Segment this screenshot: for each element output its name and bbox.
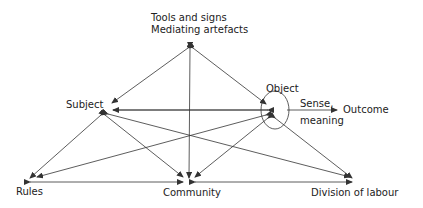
outcome-label: Outcome: [343, 104, 389, 116]
sense-label-line1: Sense,: [300, 98, 333, 110]
tools-label-line2: Mediating artefacts: [151, 24, 248, 36]
division-of-labour-label: Division of labour: [311, 187, 398, 199]
tools-label-line1: Tools and signs: [151, 12, 227, 24]
subject-label: Subject: [66, 99, 103, 111]
sense-label-line2: meaning: [300, 115, 344, 127]
community-label: Community: [163, 187, 221, 199]
object-label: Object: [266, 83, 299, 95]
rules-label: Rules: [16, 186, 43, 198]
activity-system-diagram: Tools and signs Mediating artefacts Subj…: [0, 0, 423, 208]
